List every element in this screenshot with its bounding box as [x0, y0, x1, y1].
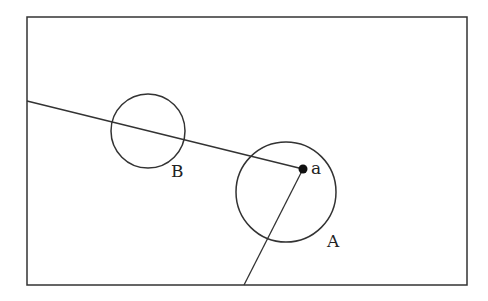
frame-border — [27, 17, 467, 285]
line-point-a-to-bottom — [244, 169, 303, 285]
diagram-canvas: B A a — [0, 0, 488, 301]
circle-a — [236, 142, 336, 242]
point-a-label: a — [311, 158, 321, 178]
circle-b-label: B — [171, 161, 184, 181]
circle-a-label: A — [326, 231, 340, 251]
point-a-dot — [299, 165, 308, 174]
line-left-to-point-a — [27, 101, 303, 169]
